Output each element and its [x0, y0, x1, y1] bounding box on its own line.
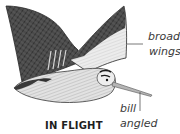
right-wing: [70, 6, 127, 72]
annotation-wings: wings: [149, 46, 180, 57]
annotation-broad: broad: [148, 31, 180, 42]
bird-bill: [112, 82, 152, 97]
woodcock-illustration: [0, 0, 180, 134]
illustration-panel: broad wings bill angled IN FLIGHT: [0, 0, 180, 134]
caption-in-flight: IN FLIGHT: [45, 120, 103, 131]
annotation-bill: bill: [120, 103, 136, 114]
annotation-angled: angled: [120, 118, 158, 129]
